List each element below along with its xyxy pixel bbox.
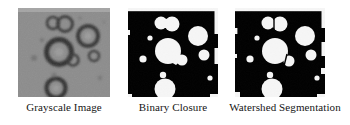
grayscale-noise-overlay [18,8,110,97]
watershed-segmentation-canvas [235,8,325,97]
grayscale-image-canvas [18,8,110,97]
binary-closure-canvas [128,8,218,97]
watershed-noise-overlay [235,8,325,97]
panel-watershed-segmentation [235,8,325,97]
binary-noise-overlay [128,8,218,97]
caption-binary-closure: Binary Closure [126,101,220,114]
grayscale-top-edge [18,8,110,12]
caption-watershed-segmentation: Watershed Segmentation [222,101,348,114]
caption-grayscale-image: Grayscale Image [4,101,124,114]
panel-grayscale-image [18,8,110,97]
panel-binary-closure [128,8,218,97]
figure-container: Grayscale Image Binary Closure Watershed… [0,0,350,125]
